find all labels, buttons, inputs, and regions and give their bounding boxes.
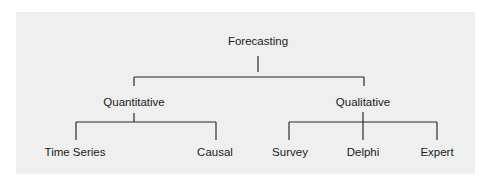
- node-delphi: Delphi: [347, 145, 380, 159]
- node-expert: Expert: [420, 145, 453, 159]
- node-time-series: Time Series: [45, 145, 106, 159]
- node-causal: Causal: [197, 145, 233, 159]
- node-survey: Survey: [272, 145, 308, 159]
- node-qualitative: Qualitative: [336, 95, 390, 109]
- node-root: Forecasting: [228, 34, 288, 48]
- node-quantitative: Quantitative: [103, 95, 164, 109]
